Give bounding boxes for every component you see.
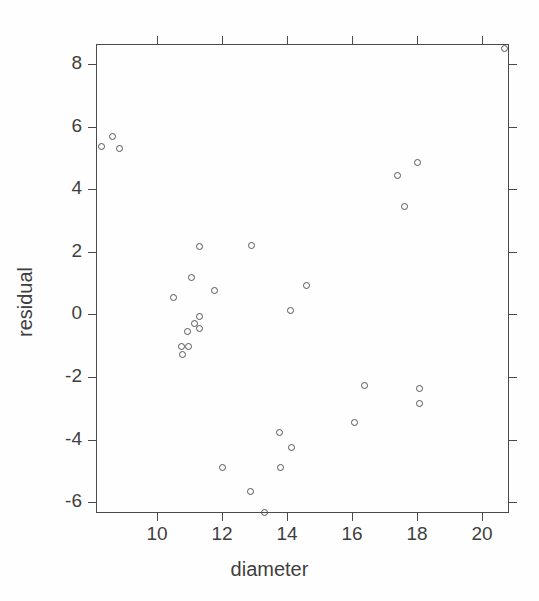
x-axis-tick-label: 16 bbox=[341, 523, 362, 545]
y-axis-tick-label: -2 bbox=[65, 365, 82, 387]
y-axis-tick bbox=[88, 314, 96, 315]
y-axis-tick-right bbox=[509, 127, 517, 128]
y-axis-tick bbox=[88, 64, 96, 65]
y-axis-tick-right bbox=[509, 377, 517, 378]
x-axis-tick bbox=[352, 513, 353, 521]
y-axis-tick-right bbox=[509, 252, 517, 253]
x-axis-tick bbox=[157, 513, 158, 521]
x-axis-tick-top bbox=[417, 36, 418, 44]
y-axis-tick bbox=[88, 377, 96, 378]
y-axis-tick-label: -4 bbox=[65, 428, 82, 450]
x-axis-tick-label: 20 bbox=[471, 523, 492, 545]
y-axis-tick-right bbox=[509, 440, 517, 441]
x-axis-tick-top bbox=[222, 36, 223, 44]
x-axis-tick-top bbox=[287, 36, 288, 44]
x-axis-tick-label: 18 bbox=[406, 523, 427, 545]
y-axis-tick bbox=[88, 127, 96, 128]
y-axis-title: residual bbox=[14, 247, 37, 357]
y-axis-tick-label: -6 bbox=[65, 490, 82, 512]
x-axis-tick-label: 14 bbox=[276, 523, 297, 545]
y-axis-tick-label: 8 bbox=[71, 52, 82, 74]
x-axis-title: diameter bbox=[0, 558, 539, 581]
y-axis-tick-right bbox=[509, 189, 517, 190]
x-axis-tick-top bbox=[157, 36, 158, 44]
x-axis-tick bbox=[417, 513, 418, 521]
y-axis-tick bbox=[88, 440, 96, 441]
y-axis-tick-label: 6 bbox=[71, 115, 82, 137]
x-axis-tick-label: 10 bbox=[147, 523, 168, 545]
y-axis-tick-label: 4 bbox=[71, 177, 82, 199]
y-axis-tick bbox=[88, 252, 96, 253]
y-axis-tick bbox=[88, 189, 96, 190]
x-axis-tick-top bbox=[352, 36, 353, 44]
x-axis-tick-label: 12 bbox=[211, 523, 232, 545]
x-axis-tick-top bbox=[482, 36, 483, 44]
y-axis-tick-label: 2 bbox=[71, 240, 82, 262]
y-axis-tick-label: 0 bbox=[71, 302, 82, 324]
y-axis-tick-right bbox=[509, 314, 517, 315]
x-axis-tick bbox=[222, 513, 223, 521]
plot-frame bbox=[96, 44, 509, 513]
y-axis-tick-right bbox=[509, 502, 517, 503]
x-axis-tick bbox=[287, 513, 288, 521]
y-axis-tick bbox=[88, 502, 96, 503]
scatter-plot-figure: 86420-2-4-6101214161820 diameter residua… bbox=[0, 0, 539, 601]
x-axis-tick bbox=[482, 513, 483, 521]
y-axis-tick-right bbox=[509, 64, 517, 65]
